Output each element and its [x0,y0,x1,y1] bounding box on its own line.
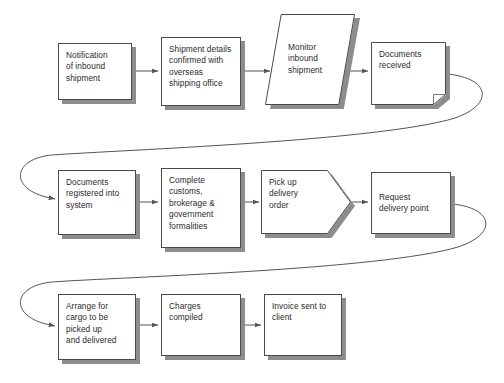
flowchart-canvas: Notification of inbound shipment Shipmen… [0,0,504,383]
node-label: Request delivery point [379,192,444,215]
node-arrange-for-cargo[interactable]: Arrange for cargo to be picked up and de… [58,294,136,360]
node-label: Invoice sent to client [272,301,335,324]
conn-documents-to-registered-arrow [46,197,55,199]
node-label: Shipment details confirmed with overseas… [169,44,234,90]
node-monitor-inbound-shipment[interactable]: Monitor inbound shipment [265,14,355,105]
node-label: Charges compiled [169,301,234,324]
node-complete-customs-formalities[interactable]: Complete customs, brokerage & government… [161,168,241,248]
node-charges-compiled[interactable]: Charges compiled [161,294,241,356]
node-request-delivery-point[interactable]: Request delivery point [371,172,451,234]
node-label: Pick up delivery order [269,177,344,211]
node-pick-up-delivery-order[interactable]: Pick up delivery order [261,170,351,234]
node-label: Documents received [379,49,439,72]
node-invoice-sent-to-client[interactable]: Invoice sent to client [264,294,342,356]
node-notification-of-inbound-shipment[interactable]: Notification of inbound shipment [58,43,132,100]
node-label: Complete customs, brokerage & government… [169,175,234,232]
node-label: Arrange for cargo to be picked up and de… [66,301,129,347]
conn-request-to-arrange-arrow [46,324,55,326]
node-label: Notification of inbound shipment [66,50,125,84]
node-documents-registered-into-system[interactable]: Documents registered into system [58,170,136,235]
node-label: Monitor inbound shipment [288,42,348,76]
node-documents-received[interactable]: Documents received [371,42,446,105]
node-shipment-details-confirmed[interactable]: Shipment details confirmed with overseas… [161,37,241,106]
node-label: Documents registered into system [66,177,129,211]
